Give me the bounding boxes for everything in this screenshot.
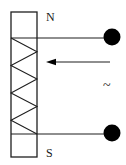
top-terminal-dot (104, 29, 121, 46)
direction-arrow-head-icon (46, 59, 56, 65)
coil-winding-zigzag (11, 38, 37, 134)
electromagnet-diagram: N S ~ (0, 0, 126, 165)
magnet-core (11, 12, 37, 157)
south-pole-label: S (46, 146, 53, 160)
north-pole-label: N (46, 10, 55, 24)
bottom-terminal-dot (104, 125, 121, 142)
direction-arrow (46, 59, 110, 65)
ac-source-symbol: ~ (103, 78, 111, 93)
